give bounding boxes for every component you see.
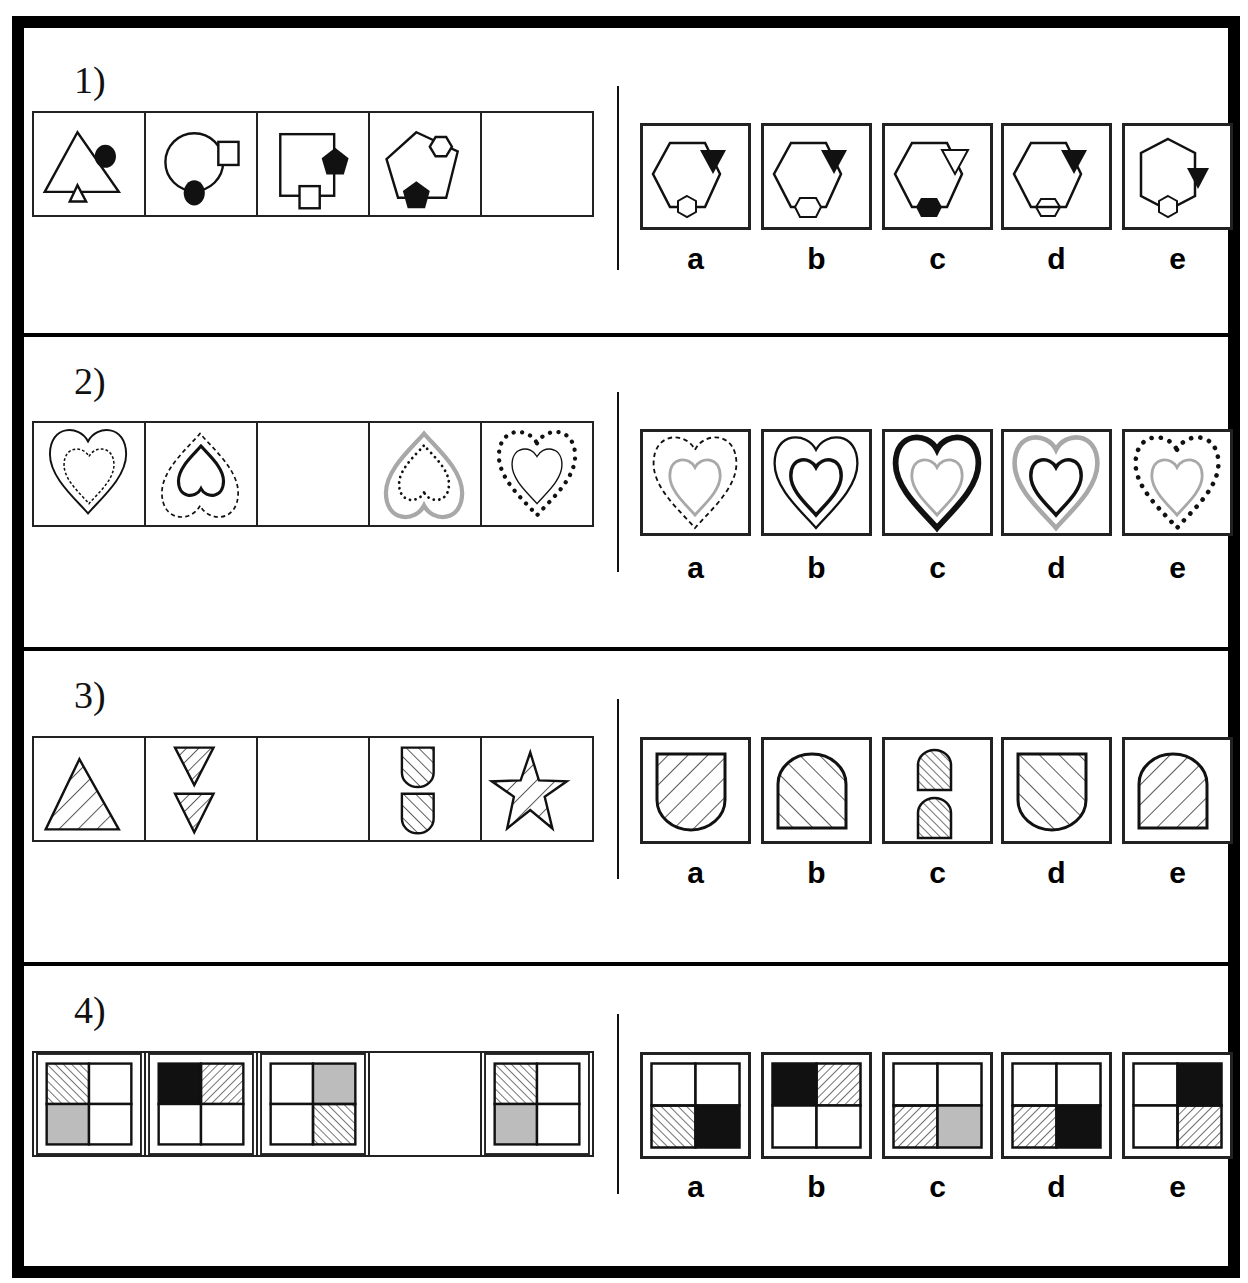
column-divider (617, 392, 619, 572)
option-figure (1004, 740, 1109, 841)
option-figure (1125, 432, 1230, 533)
quadrant-grid (761, 1052, 872, 1159)
option-label-d: d (1001, 242, 1112, 276)
option-label-c: c (882, 856, 993, 890)
sequence-cell-3 (258, 113, 370, 215)
hatched-star-figure (482, 738, 592, 840)
option-label-c: c (882, 1170, 993, 1204)
option-label-e: e (1122, 242, 1233, 276)
quadrant-grid (482, 1053, 592, 1155)
option-figure (764, 126, 869, 227)
question-number: 1) (74, 58, 106, 102)
quadrant-grid (1001, 1052, 1112, 1159)
question-number: 2) (74, 359, 106, 403)
option-a[interactable] (640, 737, 751, 844)
answer-cell-empty[interactable] (370, 1053, 482, 1155)
column-divider (617, 86, 619, 270)
option-label-a: a (640, 856, 751, 890)
sequence-cell-4 (370, 423, 482, 525)
option-e[interactable] (1122, 1052, 1233, 1159)
option-label-b: b (761, 856, 872, 890)
option-a[interactable] (640, 123, 751, 230)
question-1: 1) (24, 28, 1228, 333)
option-d[interactable] (1001, 123, 1112, 230)
option-figure (764, 740, 869, 841)
option-label-d: d (1001, 856, 1112, 890)
option-label-d: d (1001, 1170, 1112, 1204)
inverted-heart-pair-figure (146, 423, 256, 525)
sequence-cell-5 (482, 738, 592, 840)
triangle-circle-figure (34, 113, 144, 215)
option-e[interactable] (1122, 737, 1233, 844)
option-c[interactable] (882, 1052, 993, 1159)
sequence-cell-2 (146, 738, 258, 840)
column-divider (617, 1014, 619, 1194)
option-figure (885, 740, 990, 841)
option-figure (643, 126, 748, 227)
option-b[interactable] (761, 429, 872, 536)
sequence-cell-3 (258, 1053, 370, 1155)
option-figure (643, 432, 748, 533)
pentagon-hexagon-figure (370, 113, 480, 215)
option-b[interactable] (761, 1052, 872, 1159)
option-figure (1125, 740, 1230, 841)
sequence-cell-5 (482, 423, 592, 525)
option-b[interactable] (761, 737, 872, 844)
hatched-shields-figure (370, 738, 480, 840)
option-b[interactable] (761, 123, 872, 230)
sequence-cell-1 (34, 423, 146, 525)
square-pentagon-figure (258, 113, 368, 215)
worksheet-frame: 1) (12, 16, 1240, 1278)
option-c[interactable] (882, 123, 993, 230)
heart-pair-figure (482, 423, 592, 525)
option-label-e: e (1122, 1170, 1233, 1204)
option-a[interactable] (640, 429, 751, 536)
question-number: 3) (74, 673, 106, 717)
option-e[interactable] (1122, 429, 1233, 536)
option-c[interactable] (882, 429, 993, 536)
heart-pair-figure (34, 423, 144, 525)
option-figure (1004, 432, 1109, 533)
sequence-cell-4 (370, 113, 482, 215)
sequence-cell-1 (34, 1053, 146, 1155)
sequence-cell-4 (370, 738, 482, 840)
sequence-cell-1 (34, 113, 146, 215)
option-figure (885, 432, 990, 533)
quadrant-grid (34, 1053, 144, 1155)
option-d[interactable] (1001, 737, 1112, 844)
option-label-b: b (761, 551, 872, 585)
option-figure (885, 126, 990, 227)
hatched-triangle-figure (34, 738, 144, 840)
answer-cell-empty[interactable] (258, 738, 370, 840)
sequence-cell-5 (482, 1053, 592, 1155)
option-label-b: b (761, 242, 872, 276)
option-label-d: d (1001, 551, 1112, 585)
sequence-strip (32, 736, 594, 842)
question-4: 4) a b c d e (24, 966, 1228, 1266)
option-label-a: a (640, 1170, 751, 1204)
sequence-cell-2 (146, 113, 258, 215)
quadrant-grid (1122, 1052, 1233, 1159)
option-label-e: e (1122, 551, 1233, 585)
quadrant-grid (146, 1053, 256, 1155)
option-d[interactable] (1001, 1052, 1112, 1159)
option-figure (643, 740, 748, 841)
option-d[interactable] (1001, 429, 1112, 536)
sequence-cell-1 (34, 738, 146, 840)
answer-cell-empty[interactable] (258, 423, 370, 525)
option-label-a: a (640, 242, 751, 276)
quadrant-grid (258, 1053, 368, 1155)
option-c[interactable] (882, 737, 993, 844)
option-figure (1004, 126, 1109, 227)
option-figure (1125, 126, 1230, 227)
circle-square-figure (146, 113, 256, 215)
answer-cell-empty[interactable] (482, 113, 592, 215)
sequence-cell-2 (146, 423, 258, 525)
option-label-c: c (882, 242, 993, 276)
option-a[interactable] (640, 1052, 751, 1159)
option-e[interactable] (1122, 123, 1233, 230)
question-number: 4) (74, 988, 106, 1032)
quadrant-grid (882, 1052, 993, 1159)
sequence-cell-2 (146, 1053, 258, 1155)
quadrant-grid (640, 1052, 751, 1159)
